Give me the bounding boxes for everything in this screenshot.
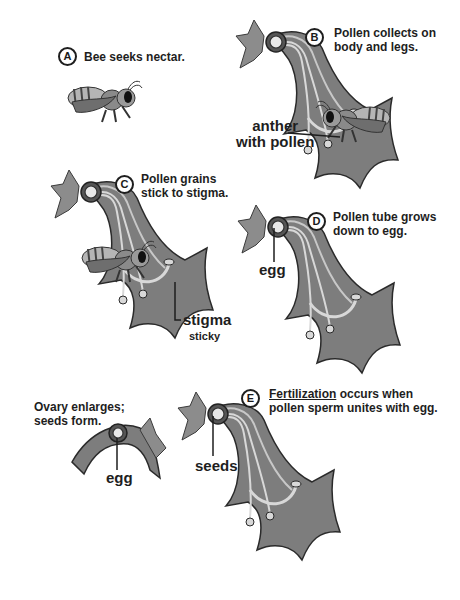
panel-c-caption: Pollen grains stick to stigma.: [141, 172, 228, 200]
panel-d-caption: Pollen tube grows down to egg.: [333, 210, 436, 238]
panel-c-caption-line1: Pollen grains: [141, 172, 228, 186]
panel-a-badge: A: [58, 47, 77, 66]
pollination-diagram-art: [0, 0, 460, 600]
panel-d-badge: D: [307, 212, 326, 231]
anther-label-line2: with pollen: [236, 134, 314, 150]
seeds-label: seeds: [195, 458, 238, 474]
panel-c-caption-line2: stick to stigma.: [141, 186, 228, 200]
anther-label: anther with pollen: [236, 118, 314, 150]
stigma-label: stigma: [183, 312, 231, 328]
egg-label-d: egg: [259, 262, 286, 278]
panel-d-caption-line2: down to egg.: [333, 224, 436, 238]
anther-label-line1: anther: [236, 118, 314, 134]
panel-b-caption: Pollen collects on body and legs.: [334, 26, 436, 54]
bee-illustration-a: [68, 81, 142, 122]
flower-e: [178, 392, 340, 560]
egg-label-ovary: egg: [106, 470, 133, 486]
ovary-caption: Ovary enlarges; seeds form.: [34, 400, 125, 428]
fertilization-term: Fertilization: [269, 387, 336, 401]
ovary-caption-line2: seeds form.: [34, 414, 125, 428]
ovary-caption-line1: Ovary enlarges;: [34, 400, 125, 414]
panel-e-caption-rest: occurs when: [336, 387, 413, 401]
panel-e-caption-line2: pollen sperm unites with egg.: [269, 401, 438, 415]
panel-a-caption: Bee seeks nectar.: [84, 50, 185, 64]
panel-b-caption-line1: Pollen collects on: [334, 26, 436, 40]
panel-e-caption: Fertilization occurs when pollen sperm u…: [269, 387, 438, 415]
panel-c-badge: C: [115, 175, 134, 194]
panel-b-badge: B: [305, 28, 324, 47]
panel-e-badge: E: [241, 389, 260, 408]
panel-e-caption-line1: Fertilization occurs when: [269, 387, 438, 401]
panel-b-caption-line2: body and legs.: [334, 40, 436, 54]
stigma-sublabel: sticky: [189, 330, 220, 342]
panel-d-caption-line1: Pollen tube grows: [333, 210, 436, 224]
